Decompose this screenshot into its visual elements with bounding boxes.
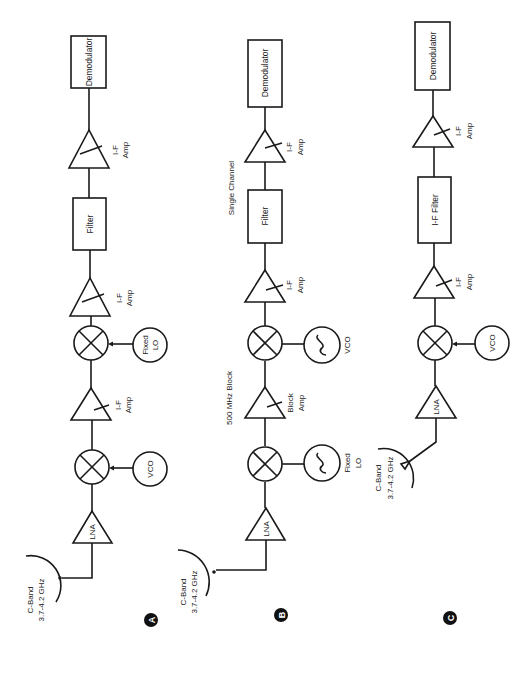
wire (62, 543, 92, 578)
amp-label: Amp (125, 289, 134, 306)
fixed-lo-oscillator (133, 328, 167, 362)
badge-letter: A (147, 616, 157, 623)
badge-letter: B (277, 611, 287, 618)
oscillator-label: LO (354, 458, 363, 469)
block-band-label: 500 MHz Block (225, 370, 234, 425)
lna-label: LNA (432, 399, 441, 415)
feed-horn (212, 570, 216, 574)
amp-label: Amp (465, 273, 474, 290)
if-amp-icon (413, 116, 453, 147)
amp-label: I-F (114, 400, 123, 410)
diagram-a: Demodulator I-F Amp Filter I-F Amp Fixed… (26, 36, 167, 627)
diagram-b: Demodulator I-F Amp Single Channel Filte… (178, 40, 363, 622)
band-label: C-Band (26, 586, 35, 613)
amp-label: I-F (454, 277, 463, 287)
satellite-dish-icon (378, 448, 414, 488)
oscillator-label: VCO (343, 336, 352, 353)
lna-label: LNA (262, 521, 271, 537)
amp-label: Block (286, 392, 295, 413)
oscillator-label: Fixed (141, 335, 150, 355)
oscillator-label: VCO (146, 460, 155, 477)
badge-letter: C (446, 614, 456, 621)
frequency-label: 3.7-4.2 GHz (190, 570, 199, 613)
filter-label: Filter (260, 206, 270, 225)
amp-label: Amp (121, 141, 130, 158)
frequency-label: 3.7-4.2 GHz (386, 456, 395, 499)
amp-label: Amp (296, 138, 305, 155)
amp-label: I-F (285, 280, 294, 290)
oscillator-label: Fixed (343, 453, 352, 473)
amp-label: I-F (454, 126, 463, 136)
receiver-block-diagrams: Demodulator I-F Amp Filter I-F Amp Fixed… (0, 0, 514, 673)
if-amp-icon (70, 278, 110, 316)
single-channel-label: Single Channel (227, 161, 236, 215)
amp-label: Amp (296, 276, 305, 293)
feed-horn (58, 576, 62, 580)
oscillator-label: LO (151, 340, 160, 351)
amp-label: I-F (111, 145, 120, 155)
diagram-c: Demodulator I-F Amp I-F Filter I-F Amp V… (374, 22, 509, 625)
feed-horn (401, 461, 410, 469)
lna-label: LNA (88, 524, 97, 540)
demodulator-label: Demodulator (260, 49, 270, 98)
demodulator-label: Demodulator (84, 38, 94, 87)
amp-label: I-F (115, 293, 124, 303)
amp-label: I-F (285, 142, 294, 152)
filter-label: Filter (85, 214, 95, 233)
amp-label: Amp (465, 122, 474, 139)
filter-label: I-F Filter (430, 194, 440, 226)
frequency-label: 3.7-4.2 GHz (37, 578, 46, 621)
amp-label: Amp (124, 396, 133, 413)
if-amp-icon (245, 130, 285, 162)
if-amp-icon (71, 388, 111, 420)
if-amp-icon (69, 130, 109, 168)
band-label: C-Band (179, 578, 188, 605)
amp-label: Amp (297, 394, 306, 411)
demodulator-label: Demodulator (428, 32, 438, 81)
band-label: C-Band (374, 464, 383, 491)
wire (410, 418, 436, 461)
oscillator-label: VCO (488, 334, 497, 351)
wire (216, 540, 266, 570)
